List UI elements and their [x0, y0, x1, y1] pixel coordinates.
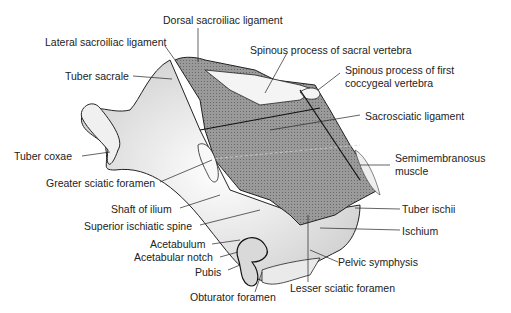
label-spinous-process-coccygeal-line1: Spinous process of first [345, 64, 454, 76]
label-ischium: Ischium [402, 225, 438, 237]
label-shaft-of-ilium: Shaft of ilium [111, 203, 172, 215]
label-obturator-foramen: Obturator foramen [190, 291, 276, 303]
label-lesser-sciatic-foramen: Lesser sciatic foramen [290, 282, 395, 294]
label-lateral-sacroiliac-ligament: Lateral sacroiliac ligament [45, 36, 166, 48]
label-spinous-process-sacral: Spinous process of sacral vertebra [250, 44, 412, 56]
label-pubis: Pubis [195, 266, 221, 278]
label-semimembranosus-line1: Semimembranosus [395, 152, 485, 164]
label-dorsal-sacroiliac-ligament: Dorsal sacroiliac ligament [163, 14, 283, 26]
label-tuber-sacrale: Tuber sacrale [65, 70, 129, 82]
label-sacrosciatic-ligament: Sacrosciatic ligament [365, 110, 464, 122]
label-acetabular-notch: Acetabular notch [134, 251, 213, 263]
label-tuber-coxae: Tuber coxae [14, 150, 72, 162]
label-semimembranosus-line2: muscle [395, 165, 428, 177]
diagram-canvas: Dorsal sacroiliac ligament Lateral sacro… [0, 0, 511, 313]
label-acetabulum: Acetabulum [150, 238, 205, 250]
label-spinous-process-coccygeal-line2: coccygeal vertebra [345, 77, 433, 89]
label-pelvic-symphysis: Pelvic symphysis [338, 256, 418, 268]
label-greater-sciatic-foramen: Greater sciatic foramen [46, 177, 155, 189]
label-superior-ischiatic-spine: Superior ischiatic spine [84, 220, 192, 232]
label-tuber-ischii: Tuber ischii [402, 203, 455, 215]
